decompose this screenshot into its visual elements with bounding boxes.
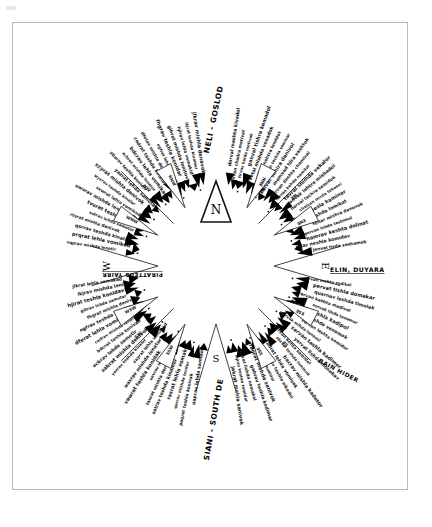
ink-speck	[291, 240, 293, 242]
heading-right-underlined: ELIN, DUYARA	[330, 266, 385, 273]
ray-arrowhead	[231, 342, 239, 353]
ink-speck	[237, 191, 239, 193]
heading-top: NELI - GOSLOD	[202, 85, 225, 154]
ink-speck	[146, 236, 148, 238]
cardinal-letter-west: W	[101, 260, 112, 271]
ink-speck	[193, 341, 195, 343]
ink-speck	[288, 296, 290, 298]
north-arrow-label: N	[211, 203, 222, 217]
ink-speck	[230, 339, 232, 341]
heading-left-underlined: PIRATTEDS YAIRR	[102, 272, 163, 278]
ink-speck	[292, 278, 294, 280]
ink-speck	[249, 337, 251, 339]
ray-arrowhead	[188, 183, 198, 191]
ink-speck	[161, 321, 163, 323]
north-arrow-icon: N	[201, 181, 231, 222]
cardinal-letter-south: S	[213, 353, 220, 364]
ink-speck	[165, 204, 167, 206]
ink-speck	[148, 308, 150, 310]
figure-canvas: dorval mashta kivadolsilvan chadra metiv…	[0, 0, 432, 527]
ink-speck	[275, 310, 277, 312]
ink-speck	[143, 289, 145, 291]
ink-speck	[200, 189, 202, 191]
ink-speck	[267, 211, 269, 213]
heading-bottom: SIANI - SOUTH DE	[202, 378, 225, 461]
ink-speck	[183, 197, 185, 199]
ink-speck	[153, 219, 155, 221]
ink-speck	[281, 224, 283, 226]
ink-speck	[264, 325, 266, 327]
ink-speck	[137, 252, 139, 254]
sector-wedge-layer: NNEENEESESSESSWWSWWNWNNWNESESWNW	[114, 164, 319, 369]
compass-diagram: dorval mashta kivadolsilvan chadra metiv…	[0, 0, 432, 527]
compass-rose-svg: dorval mashta kivadolsilvan chadra metiv…	[0, 0, 432, 527]
